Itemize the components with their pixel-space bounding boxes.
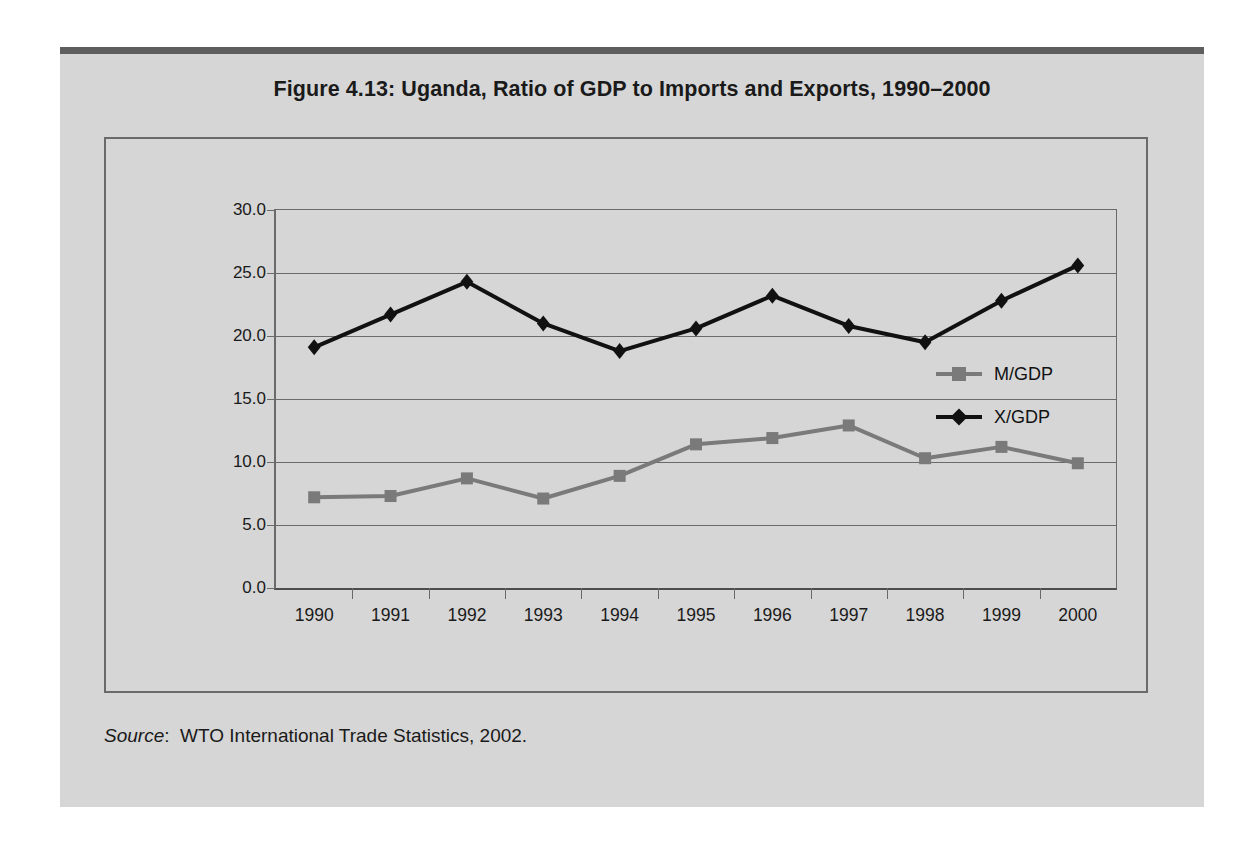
series-m-gdp: [308, 419, 1084, 504]
x-axis-tick-mark: [811, 588, 812, 599]
page-root: Figure 4.13: Uganda, Ratio of GDP to Imp…: [0, 0, 1244, 851]
x-axis-tick-label: 1994: [600, 605, 639, 626]
data-point-marker-diamond: [537, 315, 550, 331]
y-axis-tick-label: 5.0: [242, 515, 266, 535]
y-axis-tick-mark: [267, 273, 275, 274]
scanned-page-panel: Figure 4.13: Uganda, Ratio of GDP to Imp…: [60, 47, 1204, 807]
legend-label: M/GDP: [994, 364, 1053, 385]
x-axis-tick-label: 1998: [906, 605, 945, 626]
data-point-marker-diamond: [384, 307, 397, 323]
series-plot-svg: [276, 210, 1116, 588]
y-axis-tick-mark: [267, 399, 275, 400]
data-point-marker-square: [995, 441, 1007, 453]
y-axis-tick-label: 0.0: [242, 578, 266, 598]
x-axis-tick-mark: [963, 588, 964, 599]
source-note: Source: WTO International Trade Statisti…: [104, 725, 527, 747]
x-axis-tick-label: 1996: [753, 605, 792, 626]
data-point-marker-square: [843, 419, 855, 431]
data-point-marker-diamond: [308, 339, 321, 355]
x-axis-tick-mark: [887, 588, 888, 599]
data-point-marker-diamond: [995, 293, 1008, 309]
legend-swatch-diamond-icon: [936, 408, 982, 426]
data-point-marker-diamond: [766, 288, 779, 304]
y-axis-tick-label: 15.0: [233, 389, 266, 409]
x-axis-tick-label: 1997: [829, 605, 868, 626]
data-point-marker-diamond: [919, 334, 932, 350]
y-axis-tick-mark: [267, 588, 275, 589]
y-axis-tick-label: 20.0: [233, 326, 266, 346]
x-axis-tick-mark: [658, 588, 659, 599]
legend-label: X/GDP: [994, 407, 1050, 428]
data-point-marker-diamond: [842, 318, 855, 334]
x-axis-tick-mark: [581, 588, 582, 599]
data-point-marker-diamond: [461, 274, 474, 290]
data-point-marker-square: [1072, 457, 1084, 469]
page-top-rule: [60, 47, 1204, 54]
legend-marker: [951, 409, 968, 426]
series-x-gdp: [308, 257, 1084, 359]
series-line: [314, 265, 1078, 351]
data-point-marker-diamond: [690, 320, 703, 336]
y-axis-tick-mark: [267, 336, 275, 337]
legend-marker: [952, 367, 966, 381]
data-point-marker-square: [461, 472, 473, 484]
x-axis-tick-label: 1993: [524, 605, 563, 626]
data-point-marker-square: [614, 470, 626, 482]
data-point-marker-square: [537, 493, 549, 505]
x-axis-tick-label: 1992: [447, 605, 486, 626]
legend-entry-x-gdp[interactable]: X/GDP: [936, 407, 1050, 428]
y-axis-tick-mark: [267, 462, 275, 463]
legend-entry-m-gdp[interactable]: M/GDP: [936, 364, 1053, 385]
x-axis-tick-mark: [352, 588, 353, 599]
data-point-marker-diamond: [613, 343, 626, 359]
figure-title: Figure 4.13: Uganda, Ratio of GDP to Imp…: [60, 77, 1204, 102]
x-axis-tick-label: 2000: [1058, 605, 1097, 626]
series-line: [314, 425, 1078, 498]
source-label: Source: [104, 725, 164, 746]
source-text: WTO International Trade Statistics, 2002…: [180, 725, 527, 746]
data-point-marker-square: [919, 452, 931, 464]
x-axis-tick-label: 1999: [982, 605, 1021, 626]
x-axis-tick-mark: [429, 588, 430, 599]
data-point-marker-square: [766, 432, 778, 444]
data-point-marker-diamond: [1071, 257, 1084, 273]
x-axis-tick-mark: [1040, 588, 1041, 599]
data-point-marker-square: [308, 491, 320, 503]
y-axis-tick-label: 25.0: [233, 263, 266, 283]
source-separator: :: [164, 725, 169, 746]
x-axis-tick-mark: [734, 588, 735, 599]
y-axis-tick-label: 30.0: [233, 200, 266, 220]
data-point-marker-square: [690, 438, 702, 450]
y-axis-tick-mark: [267, 525, 275, 526]
x-axis-tick-label: 1991: [371, 605, 410, 626]
plot-area: 0.05.010.015.020.025.030.0 1990199119921…: [274, 209, 1117, 590]
x-axis-tick-label: 1990: [295, 605, 334, 626]
chart-frame: 0.05.010.015.020.025.030.0 1990199119921…: [104, 137, 1148, 693]
x-axis-tick-label: 1995: [677, 605, 716, 626]
x-axis-tick-mark: [505, 588, 506, 599]
y-axis-tick-mark: [267, 210, 275, 211]
data-point-marker-square: [385, 490, 397, 502]
y-axis-tick-label: 10.0: [233, 452, 266, 472]
legend-swatch-square-icon: [936, 365, 982, 383]
